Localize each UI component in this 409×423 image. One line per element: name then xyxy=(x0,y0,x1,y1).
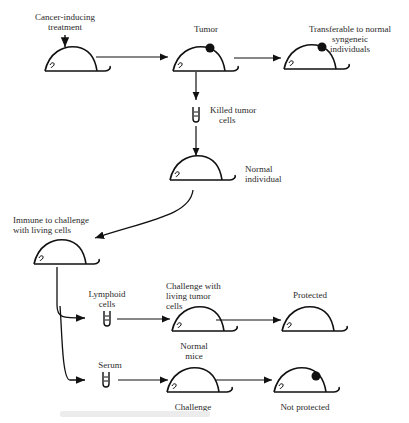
label-line: syngeneic xyxy=(300,34,400,44)
label-transferable: Transferable to normal syngeneic individ… xyxy=(300,24,400,54)
label-line: Transferable to normal xyxy=(300,24,400,34)
label-challenge-living: Challenge with living tumor cells xyxy=(166,281,221,311)
tumor-mouse xyxy=(173,44,238,72)
faded-figure-caption xyxy=(60,411,210,417)
tumor-mass xyxy=(206,44,215,53)
label-line: Cancer-inducing xyxy=(25,12,105,22)
label-line: Immune to challenge xyxy=(13,215,89,225)
tumor-mass xyxy=(312,372,321,381)
serum-tube-icon xyxy=(103,372,109,387)
not-protected-mouse xyxy=(274,368,339,392)
label-normal-individual: Normal individual xyxy=(245,164,282,184)
label-tumor: Tumor xyxy=(186,24,226,34)
label-line: Lymphoid xyxy=(82,289,132,299)
label-line: individuals xyxy=(300,44,400,54)
protected-mouse xyxy=(282,307,347,331)
arrow-to-immune xyxy=(95,190,193,238)
label-not-protected: Not protected xyxy=(270,402,340,412)
label-line: individual xyxy=(245,174,282,184)
label-line: cells xyxy=(82,299,132,309)
label-line: mice xyxy=(174,351,214,361)
label-line: Normal xyxy=(245,164,282,174)
label-lymphoid: Lymphoid cells xyxy=(82,289,132,309)
label-line: Challenge with xyxy=(166,281,221,291)
label-line: living tumor xyxy=(166,291,221,301)
label-line: treatment xyxy=(25,22,105,32)
label-line: Normal xyxy=(174,341,214,351)
lymphoid-tube-icon xyxy=(104,311,110,326)
label-normal-mice: Normal mice xyxy=(174,341,214,361)
label-cancer-treatment: Cancer-inducing treatment xyxy=(25,12,105,32)
normal-individual-mouse xyxy=(170,156,235,180)
killed-cells-tube-icon xyxy=(193,107,199,122)
branch-to-lymphoid xyxy=(57,267,85,318)
label-line: cells xyxy=(210,115,256,125)
label-line: Killed tumor xyxy=(210,105,256,115)
label-line: with living cells xyxy=(13,225,89,235)
label-killed-cells: Killed tumor cells xyxy=(210,105,256,125)
label-line: cells xyxy=(166,301,221,311)
label-serum: Serum xyxy=(90,360,130,370)
treated-mouse xyxy=(45,47,110,71)
immune-mouse xyxy=(34,240,99,264)
label-immune: Immune to challenge with living cells xyxy=(13,215,89,235)
label-protected: Protected xyxy=(280,290,340,300)
